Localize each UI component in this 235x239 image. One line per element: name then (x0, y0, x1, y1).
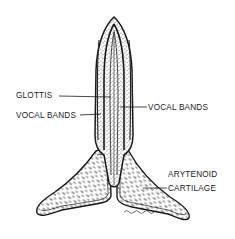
vocal-bands-right-label: VOCAL BANDS (148, 103, 208, 112)
left-arytenoid-cartilage (37, 150, 111, 215)
vocal-bands-left-label: VOCAL BANDS (16, 111, 76, 120)
arytenoid-label-line1: ARYTENOID (168, 170, 217, 179)
arytenoid-label-line2: CARTILAGE (168, 184, 216, 193)
larynx-diagram: GLOTTIS VOCAL BANDS VOCAL BANDS ARYTENOI… (0, 0, 235, 239)
glottis-label: GLOTTIS (16, 91, 53, 100)
